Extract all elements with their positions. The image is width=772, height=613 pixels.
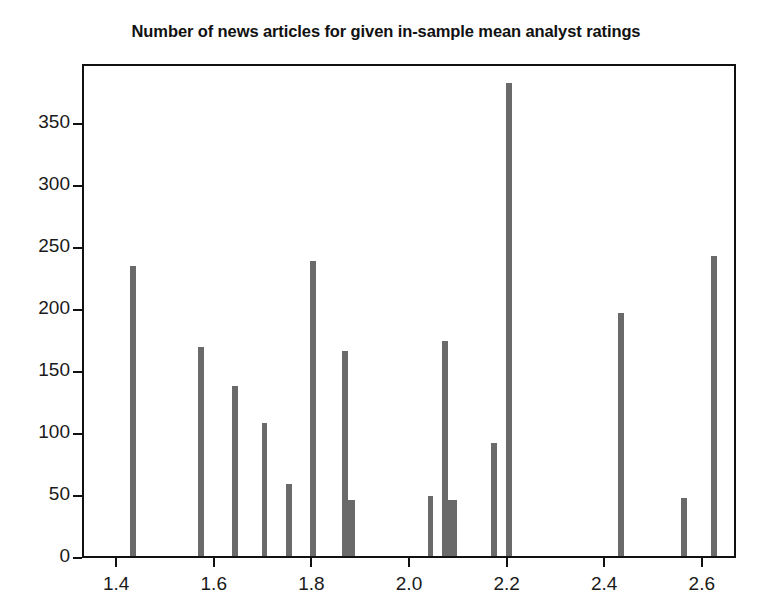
y-axis-tick bbox=[73, 495, 82, 497]
bar bbox=[198, 347, 204, 556]
y-axis-tick-label: 350 bbox=[0, 111, 70, 133]
chart-title: Number of news articles for given in-sam… bbox=[0, 22, 772, 41]
bar bbox=[681, 498, 687, 556]
bar bbox=[448, 500, 458, 556]
x-axis-tick bbox=[408, 558, 410, 567]
x-axis-tick-label: 2.0 bbox=[369, 573, 449, 595]
x-axis-tick bbox=[701, 558, 703, 567]
bar bbox=[286, 484, 292, 556]
bar bbox=[310, 261, 316, 556]
y-axis-tick bbox=[73, 309, 82, 311]
x-axis-tick-label: 1.8 bbox=[271, 573, 351, 595]
x-axis-tick-label: 1.6 bbox=[174, 573, 254, 595]
bar bbox=[506, 83, 512, 556]
bar bbox=[130, 266, 136, 556]
y-axis-tick-label: 300 bbox=[0, 173, 70, 195]
x-axis-tick-label: 2.2 bbox=[467, 573, 547, 595]
bar bbox=[491, 443, 497, 556]
x-axis-tick bbox=[310, 558, 312, 567]
y-axis-tick bbox=[73, 433, 82, 435]
bar bbox=[345, 500, 355, 556]
plot-area bbox=[82, 64, 736, 558]
y-axis-tick bbox=[73, 123, 82, 125]
x-axis-tick-label: 2.4 bbox=[564, 573, 644, 595]
x-axis-tick bbox=[506, 558, 508, 567]
x-axis-tick-label: 2.6 bbox=[662, 573, 742, 595]
y-axis-tick-label: 0 bbox=[0, 545, 70, 567]
y-axis-tick bbox=[73, 557, 82, 559]
y-axis-tick bbox=[73, 185, 82, 187]
y-axis-tick bbox=[73, 371, 82, 373]
x-axis-tick bbox=[213, 558, 215, 567]
y-axis-tick bbox=[73, 247, 82, 249]
x-axis-tick bbox=[603, 558, 605, 567]
x-axis-tick-label: 1.4 bbox=[76, 573, 156, 595]
bar bbox=[232, 386, 238, 556]
y-axis-tick-label: 100 bbox=[0, 421, 70, 443]
y-axis-tick-label: 150 bbox=[0, 359, 70, 381]
y-axis-tick-label: 250 bbox=[0, 235, 70, 257]
bar bbox=[711, 256, 717, 556]
bar bbox=[618, 313, 624, 556]
bar bbox=[262, 423, 268, 556]
y-axis-tick-label: 200 bbox=[0, 297, 70, 319]
chart-figure: Number of news articles for given in-sam… bbox=[0, 0, 772, 613]
bar bbox=[428, 496, 434, 556]
y-axis-tick-label: 50 bbox=[0, 483, 70, 505]
x-axis-tick bbox=[115, 558, 117, 567]
bar-series bbox=[84, 66, 734, 556]
